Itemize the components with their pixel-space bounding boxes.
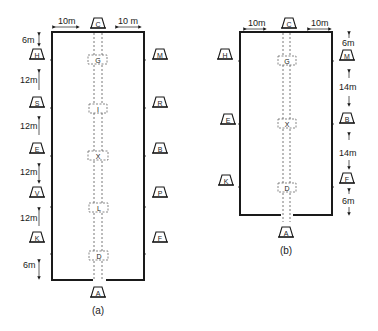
arena-b-marker-m: M [344,53,350,60]
arena-a-spacing-2: 12m [20,75,38,85]
arena-a-marker-b: B [158,146,163,153]
arena-a-marker-r: R [157,100,162,107]
arena-a-marker-m: M [157,52,163,59]
arena-a-marker-d: D [96,253,101,260]
arena-a-marker-c: C [95,21,100,28]
dressage-arena-diagrams: 10m 10 m C A H S E V K M R B [0,0,378,331]
arena-b-spacing-1: 6m [342,38,355,48]
arena-b-marker-c: C [286,21,291,28]
arena-a-dim-right: 10 m [118,16,138,26]
arena-b-spacing-4: 6m [342,196,355,206]
arena-a-marker-v: V [35,190,40,197]
arena-a-spacing-5: 12m [20,213,38,223]
arena-b-right-markers: M B F [339,50,355,183]
arena-a-marker-s: S [35,100,40,107]
arena-b-marker-g: G [284,58,289,65]
arena-b-marker-k: K [224,178,229,185]
arena-a-marker-a: A [96,290,101,297]
arena-b-marker-e: E [226,117,231,124]
arena-b-marker-d: D [284,185,289,192]
arena-a-spacing-4: 12m [20,167,38,177]
arena-b-marker-f: F [345,176,349,183]
arena-a-marker-e: E [35,146,40,153]
arena-a-marker-h: H [34,52,39,59]
arena-a: 10m 10 m C A H S E V K M R B [20,16,168,316]
arena-b-center-markers: G X D [278,56,296,192]
arena-b-caption: (b) [280,245,292,256]
arena-a-marker-p: P [158,190,163,197]
arena-b: 10m 10m C A H E K M B F [217,18,357,256]
arena-a-marker-f: F [158,235,162,242]
arena-b-marker-a: A [284,230,289,237]
arena-a-spacing-1: 6m [22,35,35,45]
arena-b-spacing-2: 14m [339,82,357,92]
arena-a-right-markers: M R B P F [152,49,168,242]
arena-a-marker-i: I [97,106,99,113]
arena-b-spacing-3: 14m [339,148,357,158]
arena-a-center-markers: G I X L D [88,55,108,260]
arena-a-marker-k: K [35,235,40,242]
arena-a-marker-x: X [96,153,101,160]
arena-a-marker-g: G [95,57,100,64]
arena-a-caption: (a) [92,305,104,316]
arena-b-left-markers: H E K [217,49,236,185]
arena-a-dim-left: 10m [58,16,76,26]
arena-a-spacing-3: 12m [20,121,38,131]
arena-a-marker-l: L [97,205,101,212]
arena-b-dim-right: 10m [311,18,329,28]
arena-b-marker-h: H [222,52,227,59]
arena-b-marker-x: X [285,121,290,128]
arena-a-spacing-6: 6m [23,260,36,270]
arena-b-marker-b: B [345,116,350,123]
arena-b-dim-left: 10m [248,18,266,28]
